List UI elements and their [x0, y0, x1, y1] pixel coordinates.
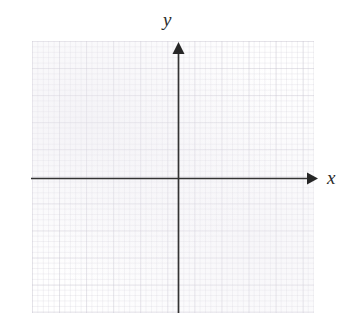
- x-axis-arrowhead: [307, 173, 318, 185]
- axes-group: [0, 0, 350, 334]
- x-axis-label: x: [327, 168, 335, 187]
- y-axis-label: y: [163, 10, 171, 29]
- y-axis-arrowhead: [173, 42, 185, 54]
- coordinate-plane-figure: y x: [0, 0, 350, 334]
